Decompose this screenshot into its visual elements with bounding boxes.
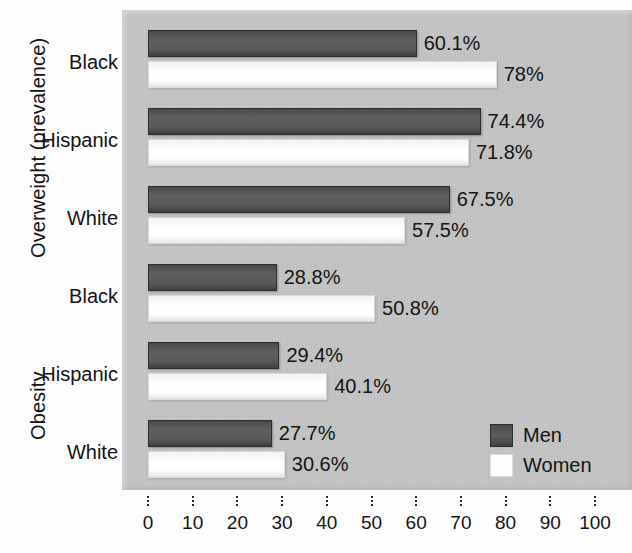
x-axis-tick-mark bbox=[147, 496, 149, 507]
bar-value-label: 57.5% bbox=[412, 217, 469, 244]
x-axis-tick-label: 40 bbox=[316, 512, 337, 534]
x-axis-tick-mark bbox=[415, 496, 417, 507]
y-axis-category-labels: BlackHispanicWhiteBlackHispanicWhite bbox=[0, 0, 118, 553]
category-label: White bbox=[8, 207, 118, 230]
bar-men-black bbox=[148, 30, 417, 57]
bar-value-label: 74.4% bbox=[488, 108, 545, 135]
x-axis-tick-mark bbox=[505, 496, 507, 507]
bar-women-hispanic bbox=[148, 139, 469, 166]
x-axis-tick-mark bbox=[326, 496, 328, 507]
x-axis-tick-label: 90 bbox=[540, 512, 561, 534]
x-axis-tick-mark bbox=[549, 496, 551, 507]
category-label: Hispanic bbox=[8, 129, 118, 152]
bar-men-black bbox=[148, 264, 277, 291]
x-axis-tick-label: 50 bbox=[361, 512, 382, 534]
x-axis-tick-label: 20 bbox=[227, 512, 248, 534]
category-label: White bbox=[8, 441, 118, 464]
bar-women-black bbox=[148, 295, 375, 322]
legend-swatch-women-icon bbox=[490, 454, 513, 477]
bar-men-hispanic bbox=[148, 342, 279, 369]
bar-women-black bbox=[148, 61, 497, 88]
x-axis-tick-label: 100 bbox=[579, 512, 611, 534]
bar-value-label: 78% bbox=[504, 61, 544, 88]
legend-label-women: Women bbox=[523, 454, 592, 477]
bar-women-white bbox=[148, 217, 405, 244]
bar-value-label: 27.7% bbox=[279, 420, 336, 447]
x-axis-tick-mark bbox=[236, 496, 238, 507]
bar-women-white bbox=[148, 451, 285, 478]
chart-figure: Overweight (prevalence) Obesity BlackHis… bbox=[0, 0, 632, 553]
bar-men-white bbox=[148, 186, 450, 213]
bar-women-hispanic bbox=[148, 373, 327, 400]
x-axis-tick-mark bbox=[371, 496, 373, 507]
x-axis-tick-label: 80 bbox=[495, 512, 516, 534]
x-axis-tick-label: 10 bbox=[182, 512, 203, 534]
bar-value-label: 71.8% bbox=[476, 139, 533, 166]
legend-label-men: Men bbox=[523, 424, 562, 447]
bar-value-label: 30.6% bbox=[292, 451, 349, 478]
x-axis-tick-label: 70 bbox=[450, 512, 471, 534]
bar-value-label: 29.4% bbox=[286, 342, 343, 369]
bar-value-label: 60.1% bbox=[424, 30, 481, 57]
legend-swatch-men-icon bbox=[490, 424, 513, 447]
x-axis-tick-label: 60 bbox=[406, 512, 427, 534]
x-axis-tick-label: 0 bbox=[143, 512, 154, 534]
x-axis-tick-mark bbox=[192, 496, 194, 507]
legend-item-women: Women bbox=[490, 450, 592, 480]
legend: Men Women bbox=[490, 420, 592, 480]
x-axis-tick-mark bbox=[460, 496, 462, 507]
x-axis-tick-mark bbox=[281, 496, 283, 507]
bar-value-label: 40.1% bbox=[334, 373, 391, 400]
category-label: Hispanic bbox=[8, 363, 118, 386]
x-axis-tick-label: 30 bbox=[272, 512, 293, 534]
bar-value-label: 50.8% bbox=[382, 295, 439, 322]
category-label: Black bbox=[8, 51, 118, 74]
bar-men-hispanic bbox=[148, 108, 481, 135]
bar-value-label: 28.8% bbox=[284, 264, 341, 291]
bar-men-white bbox=[148, 420, 272, 447]
legend-item-men: Men bbox=[490, 420, 592, 450]
category-label: Black bbox=[8, 285, 118, 308]
bar-value-label: 67.5% bbox=[457, 186, 514, 213]
x-axis-tick-mark bbox=[594, 496, 596, 507]
